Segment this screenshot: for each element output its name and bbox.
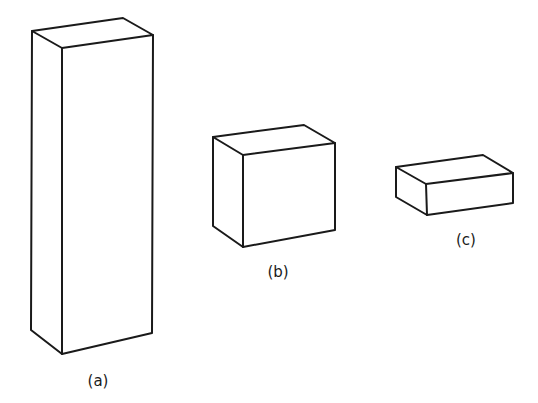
box-a <box>31 18 153 354</box>
box-b-top-face <box>213 125 335 155</box>
box-c-label: (c) <box>456 231 476 249</box>
box-c-left-face <box>396 167 427 215</box>
box-c <box>396 155 513 215</box>
box-b <box>213 125 335 247</box>
box-b-label: (b) <box>267 263 288 281</box>
box-a-left-face <box>31 31 62 354</box>
box-b-left-face <box>213 137 243 247</box>
box-c-top-face <box>396 155 513 184</box>
box-a-label: (a) <box>88 372 109 390</box>
box-b-front-face <box>243 143 335 247</box>
boxes-diagram: (a) (b) (c) <box>0 0 538 403</box>
box-a-top-face <box>32 18 153 48</box>
box-a-front-face <box>62 35 153 354</box>
